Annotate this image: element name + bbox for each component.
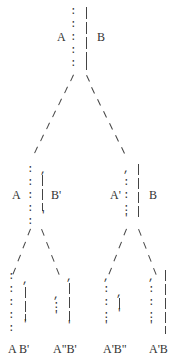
leaf-2-label: A"B' <box>53 343 77 355</box>
level1-right-left-label: A' <box>110 189 121 201</box>
level1-right-right-label: B <box>149 189 157 201</box>
leaf-1-label: A B' <box>8 343 29 355</box>
leaf-4-label: A'B <box>149 343 168 355</box>
level1-left-left-label: A <box>12 189 21 201</box>
root-left-label: A <box>57 31 66 43</box>
level1-left-right-label: B' <box>51 189 61 201</box>
leaf-3-label: A'B" <box>103 343 127 355</box>
root-right-label: B <box>97 31 105 43</box>
